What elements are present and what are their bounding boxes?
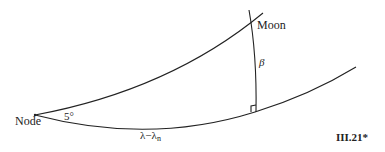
longitude-diff-label: λ−λn [140, 129, 161, 143]
beta-label: β [258, 56, 265, 68]
longitude-diff-main: λ−λ [140, 129, 158, 141]
orbit-arc [35, 13, 263, 115]
moon-label: Moon [257, 18, 286, 32]
spherical-triangle-diagram: Moon β 5° Node λ−λn III.21* [0, 0, 385, 152]
right-angle-marker [251, 105, 256, 112]
longitude-diff-subscript: n [157, 134, 161, 143]
figure-number: III.21* [336, 131, 369, 143]
ecliptic-arc [35, 67, 356, 129]
latitude-arc [249, 10, 256, 112]
node-label: Node [15, 114, 41, 128]
inclination-label: 5° [64, 110, 74, 122]
